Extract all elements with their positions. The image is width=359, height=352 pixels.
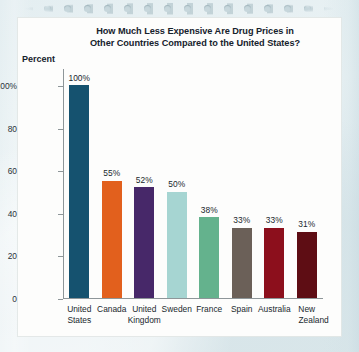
bar-slot: 38% — [199, 69, 219, 298]
bar-slot: 50% — [167, 69, 187, 298]
y-axis-tick-label: 60 — [0, 166, 17, 176]
punch-hole — [304, 5, 311, 12]
bar-series: 100%55%52%50%38%33%33%31% — [63, 69, 323, 298]
punch-hole — [4, 5, 11, 12]
bar-value-label: 52% — [136, 175, 153, 185]
x-axis-label-line-1: United — [67, 304, 91, 314]
punch-hole — [184, 5, 191, 12]
x-axis-label-line-1: Spain — [231, 304, 252, 314]
punch-hole — [144, 5, 151, 12]
x-axis-label-line-2: States — [57, 315, 101, 326]
y-axis-tick-label: 80 — [0, 124, 17, 134]
bar-slot: 100% — [69, 69, 89, 298]
bar-value-label: 50% — [168, 179, 185, 189]
x-axis-label: NewZealand — [285, 304, 329, 327]
y-axis-tick-label: 20 — [0, 251, 17, 261]
x-axis-label-line-2: Zealand — [285, 315, 329, 326]
scanned-page: How Much Less Expensive Are Drug Prices … — [0, 0, 359, 352]
bar-value-label: 31% — [298, 219, 315, 229]
bar-value-label: 55% — [103, 168, 120, 178]
bar-slot: 52% — [134, 69, 154, 298]
x-axis-label-line-2: Kingdom — [122, 315, 166, 326]
punch-hole — [124, 5, 131, 12]
bar-slot: 33% — [232, 69, 252, 298]
bar[interactable] — [167, 192, 187, 298]
punch-hole — [244, 5, 251, 12]
bar-slot: 31% — [297, 69, 317, 298]
y-axis-tick — [58, 299, 63, 300]
punch-hole — [264, 5, 271, 12]
punch-hole — [224, 5, 231, 12]
y-axis-tick-label: 100% — [0, 81, 17, 91]
x-axis-label-line-1: France — [196, 304, 222, 314]
chart-title: How Much Less Expensive Are Drug Prices … — [54, 25, 336, 49]
chart-title-line-2: Other Countries Compared to the United S… — [90, 38, 300, 48]
x-axis-labels: UnitedStatesCanadaUnitedKingdomSwedenFra… — [63, 304, 323, 332]
bar-value-label: 33% — [233, 215, 250, 225]
plot-area: 100%806040200 100%55%52%50%38%33%33%31% — [63, 69, 323, 299]
bar[interactable] — [297, 232, 317, 298]
bar-value-label: 100% — [69, 73, 90, 83]
y-axis-title: Percent — [22, 54, 55, 64]
punch-hole — [344, 5, 351, 12]
punch-hole — [324, 5, 331, 12]
chart-title-line-1: How Much Less Expensive Are Drug Prices … — [96, 26, 294, 36]
punch-hole — [104, 5, 111, 12]
chart-card: How Much Less Expensive Are Drug Prices … — [18, 18, 341, 336]
punch-hole — [164, 5, 171, 12]
punch-hole — [24, 5, 31, 12]
bar-slot: 55% — [102, 69, 122, 298]
bar[interactable] — [264, 228, 284, 298]
bar-slot: 33% — [264, 69, 284, 298]
x-axis-label-line-1: New — [298, 304, 315, 314]
bar[interactable] — [199, 217, 219, 298]
bar-value-label: 38% — [201, 205, 218, 215]
punch-hole — [44, 5, 51, 12]
punch-hole — [284, 5, 291, 12]
y-axis-tick-label: 40 — [0, 209, 17, 219]
x-axis-line — [63, 298, 323, 299]
bar[interactable] — [69, 85, 89, 298]
punch-hole — [204, 5, 211, 12]
punch-hole — [64, 5, 71, 12]
punch-hole — [84, 5, 91, 12]
bar[interactable] — [134, 187, 154, 298]
bar[interactable] — [102, 181, 122, 298]
bar[interactable] — [232, 228, 252, 298]
x-axis-label-line-1: United — [132, 304, 156, 314]
bar-value-label: 33% — [266, 215, 283, 225]
punch-hole-row — [0, 0, 359, 19]
y-axis-tick-label: 0 — [0, 294, 17, 304]
